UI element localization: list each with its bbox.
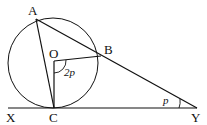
line-ac [36, 19, 54, 108]
line-ay [36, 19, 197, 108]
label-c: C [49, 110, 58, 125]
angle-arc-ayc [179, 99, 180, 108]
label-x: X [6, 110, 16, 125]
angle-label-2p: 2p [64, 66, 76, 78]
circle [8, 18, 98, 108]
angle-label-p: p [162, 94, 169, 106]
label-o: O [49, 46, 58, 61]
radius-ob [54, 56, 101, 61]
label-b: B [104, 42, 113, 57]
label-y: Y [191, 110, 201, 125]
label-a: A [28, 3, 38, 18]
geometry-diagram: A B O C X Y 2p p [0, 0, 207, 125]
